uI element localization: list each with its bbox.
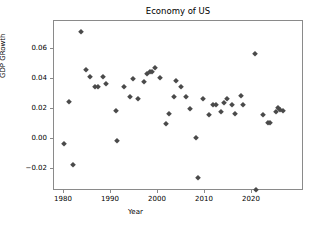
data-point xyxy=(252,50,258,56)
data-point xyxy=(70,162,76,168)
x-axis-label: Year xyxy=(128,208,228,216)
data-point xyxy=(78,29,84,35)
data-point xyxy=(99,74,105,80)
data-point xyxy=(238,92,244,98)
data-point xyxy=(121,84,127,90)
data-point xyxy=(152,65,158,71)
data-point xyxy=(239,102,245,108)
chart-title: Economy of US xyxy=(53,5,303,17)
chart-figure: Economy of US GDP GRowth Year −0.020.000… xyxy=(0,0,317,227)
data-point xyxy=(66,98,72,104)
data-point xyxy=(127,94,133,100)
y-tick-label: −0.02 xyxy=(17,164,47,172)
data-point xyxy=(183,94,189,100)
data-point xyxy=(61,140,67,146)
scatter-series xyxy=(54,21,302,189)
y-tick-label: 0.06 xyxy=(17,44,47,52)
data-point xyxy=(218,109,224,115)
data-point xyxy=(260,112,266,118)
y-tick-label: 0.02 xyxy=(17,104,47,112)
data-point xyxy=(229,102,235,108)
data-point xyxy=(232,110,238,116)
x-tick-mark xyxy=(110,190,111,193)
data-point xyxy=(213,102,219,108)
data-point xyxy=(192,134,198,140)
data-point xyxy=(166,110,172,116)
data-point xyxy=(253,187,259,193)
data-point xyxy=(141,79,147,85)
y-tick-label: 0.00 xyxy=(17,134,47,142)
data-point xyxy=(114,137,120,143)
data-point xyxy=(177,83,183,89)
data-point xyxy=(200,95,206,101)
x-tick-label: 2020 xyxy=(231,195,271,203)
plot-area xyxy=(53,20,303,190)
data-point xyxy=(83,67,89,73)
data-point xyxy=(206,112,212,118)
data-point xyxy=(187,106,193,112)
data-point xyxy=(135,95,141,101)
x-tick-label: 1980 xyxy=(43,195,83,203)
data-point xyxy=(157,74,163,80)
data-point xyxy=(103,80,109,86)
y-tick-label: 0.04 xyxy=(17,74,47,82)
x-tick-mark xyxy=(251,190,252,193)
data-point xyxy=(162,121,168,127)
x-tick-mark xyxy=(157,190,158,193)
data-point xyxy=(95,84,101,90)
x-tick-label: 2000 xyxy=(137,195,177,203)
x-tick-label: 1990 xyxy=(90,195,130,203)
x-tick-label: 2010 xyxy=(184,195,224,203)
data-point xyxy=(113,107,119,113)
data-point xyxy=(280,107,286,113)
x-tick-mark xyxy=(63,190,64,193)
data-point xyxy=(267,119,273,125)
data-point xyxy=(130,76,136,82)
x-tick-mark xyxy=(204,190,205,193)
y-axis-label: GDP GRowth xyxy=(0,34,7,78)
data-point xyxy=(195,175,201,181)
data-point xyxy=(87,74,93,80)
data-point xyxy=(171,94,177,100)
data-point xyxy=(173,77,179,83)
